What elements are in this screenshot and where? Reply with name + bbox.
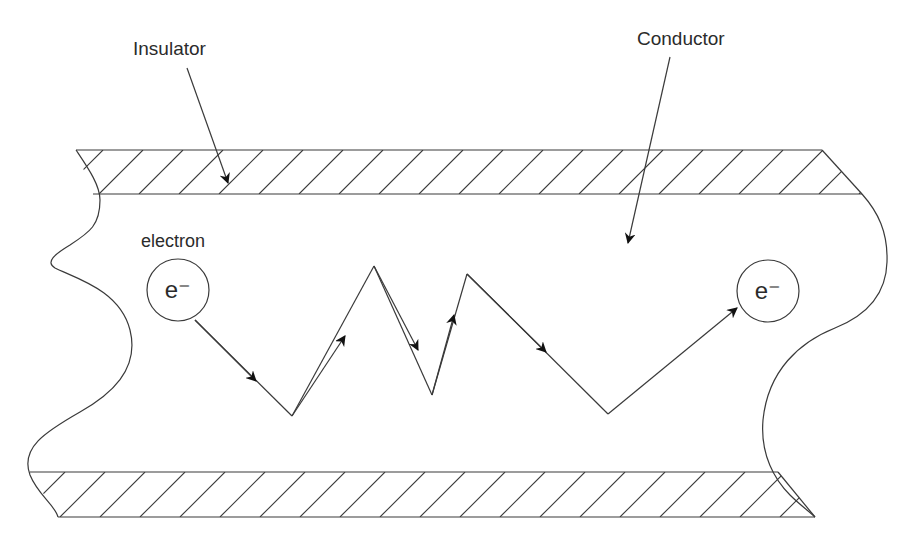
path-segment-2 <box>292 266 374 416</box>
hatch-line <box>140 472 185 517</box>
hatch-line <box>340 472 385 517</box>
hatch-line <box>379 150 423 194</box>
insulator-top-band <box>59 150 903 194</box>
hatch-line <box>500 472 545 517</box>
hatch-line <box>219 150 263 194</box>
hatch-line <box>180 472 225 517</box>
path-arrow-1 <box>195 320 256 381</box>
hatch-line <box>339 150 383 194</box>
hatch-line <box>580 472 625 517</box>
hatch-line <box>259 150 303 194</box>
insulator-label: Insulator <box>133 38 207 59</box>
hatch-line <box>740 472 785 517</box>
hatch-line <box>260 472 305 517</box>
path-arrow-2 <box>292 336 345 416</box>
hatch-line <box>419 150 463 194</box>
hatch-line <box>700 472 745 517</box>
hatch-line <box>100 472 145 517</box>
hatch-line <box>699 150 743 194</box>
hatch-line <box>859 150 903 194</box>
path-arrow-5 <box>467 274 546 352</box>
conductor-left-break-edge <box>28 150 132 517</box>
hatch-line <box>660 472 705 517</box>
hatch-line <box>540 472 585 517</box>
hatch-line <box>300 472 345 517</box>
hatch-line <box>60 472 105 517</box>
hatch-line <box>99 150 143 194</box>
insulator-bottom-hatching <box>20 472 865 517</box>
electron-path <box>195 266 737 416</box>
hatch-line <box>420 472 465 517</box>
hatch-line <box>820 472 865 517</box>
electron-end-symbol: e⁻ <box>755 277 781 304</box>
hatch-line <box>779 150 823 194</box>
electron-end: e⁻ <box>737 260 799 322</box>
path-arrow-4 <box>432 315 454 395</box>
hatch-line <box>539 150 583 194</box>
electron-label: electron <box>141 231 205 251</box>
hatch-line <box>299 150 343 194</box>
insulator-bottom-right-edge <box>778 472 815 517</box>
hatch-line <box>220 472 265 517</box>
path-segment-3 <box>374 266 432 395</box>
hatch-line <box>739 150 783 194</box>
hatch-line <box>460 472 505 517</box>
electron-start-symbol: e⁻ <box>165 276 191 303</box>
hatch-line <box>139 150 183 194</box>
hatch-line <box>780 472 825 517</box>
insulator-bottom-band <box>20 472 865 517</box>
path-arrow-3 <box>374 266 418 350</box>
path-segment-6 <box>608 308 737 414</box>
hatch-line <box>380 472 425 517</box>
hatch-line <box>620 472 665 517</box>
hatch-line <box>659 150 703 194</box>
insulator-top-right-edge <box>822 150 862 194</box>
electron-start: e⁻ <box>147 259 209 321</box>
insulator-top-hatching <box>59 150 903 194</box>
hatch-line <box>499 150 543 194</box>
conductor-diagram: Insulator Conductor electron e⁻ e⁻ <box>0 0 911 547</box>
hatch-line <box>179 150 223 194</box>
hatch-line <box>579 150 623 194</box>
conductor-label: Conductor <box>637 28 725 49</box>
conductor-right-break-edge <box>763 194 887 517</box>
hatch-line <box>459 150 503 194</box>
